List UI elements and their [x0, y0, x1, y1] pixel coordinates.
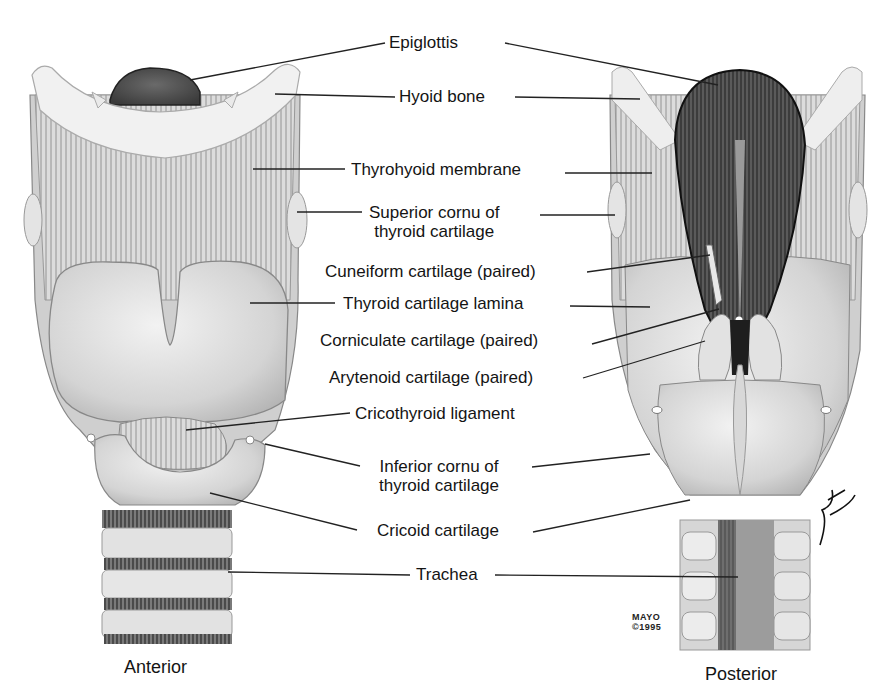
label-cricothyroid-ligament: Cricothyroid ligament — [352, 404, 518, 423]
copyright-credit: MAYO ©1995 — [632, 612, 661, 632]
label-thyrohyoid-membrane: Thyrohyoid membrane — [348, 160, 524, 179]
label-text: thyroid cartilage — [379, 476, 499, 495]
label-trachea: Trachea — [413, 565, 481, 584]
label-text: Cuneiform cartilage (paired) — [325, 262, 536, 281]
label-text: Corniculate cartilage (paired) — [320, 331, 538, 350]
label-inferior-cornu: Inferior cornu of thyroid cartilage — [376, 457, 502, 495]
label-arytenoid-cartilage: Arytenoid cartilage (paired) — [326, 368, 536, 387]
inferior-cornu-posterior-right — [821, 407, 831, 414]
label-text: Cricothyroid ligament — [355, 404, 515, 423]
trachea-anterior — [102, 510, 232, 644]
credit-line-2: ©1995 — [632, 622, 661, 632]
superior-cornu-posterior — [608, 182, 626, 238]
superior-cornu-anterior — [287, 192, 307, 248]
label-corniculate-cartilage: Corniculate cartilage (paired) — [317, 331, 541, 350]
label-text: Epiglottis — [389, 33, 458, 52]
label-text: Hyoid bone — [399, 87, 485, 106]
label-cricoid-cartilage: Cricoid cartilage — [374, 521, 502, 540]
label-text: Cricoid cartilage — [377, 521, 499, 540]
epiglottis-anterior — [110, 68, 200, 105]
trachea-posterior — [680, 520, 810, 650]
view-title-anterior: Anterior — [124, 657, 187, 678]
label-text: Trachea — [416, 565, 478, 584]
label-hyoid-bone: Hyoid bone — [396, 87, 488, 106]
label-thyroid-cartilage-lamina: Thyroid cartilage lamina — [340, 294, 526, 313]
label-text: Thyrohyoid membrane — [351, 160, 521, 179]
inferior-cornu-posterior-left — [652, 407, 662, 414]
larynx-diagram: Epiglottis Hyoid bone Thyrohyoid membran… — [0, 0, 895, 697]
superior-cornu-left — [24, 194, 42, 246]
credit-line-1: MAYO — [632, 612, 661, 622]
label-text: Superior cornu of — [369, 203, 499, 222]
superior-cornu-posterior-right — [849, 182, 867, 238]
label-superior-cornu: Superior cornu of thyroid cartilage — [366, 203, 502, 241]
inferior-cornu-gap-right — [246, 436, 254, 444]
label-text: thyroid cartilage — [374, 222, 494, 241]
artist-signature — [820, 490, 855, 545]
inferior-cornu-gap-left — [87, 434, 95, 442]
label-text: Arytenoid cartilage (paired) — [329, 368, 533, 387]
label-text: Thyroid cartilage lamina — [343, 294, 523, 313]
label-epiglottis: Epiglottis — [386, 33, 461, 52]
anterior-view — [24, 64, 307, 644]
label-text: Inferior cornu of — [379, 457, 498, 476]
view-title-posterior: Posterior — [705, 664, 777, 685]
label-cuneiform-cartilage: Cuneiform cartilage (paired) — [322, 262, 539, 281]
